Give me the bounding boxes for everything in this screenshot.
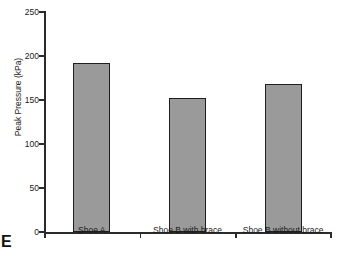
x-tick-mark [235, 232, 237, 238]
y-tick-label: 50 [30, 184, 39, 193]
figure-panel-e: E Peak Pressure (kPa) 050100150200250 Sh… [0, 0, 339, 261]
x-category-label: Shoe A [78, 226, 105, 235]
panel-letter: E [1, 234, 12, 250]
y-tick-label: 150 [25, 96, 39, 105]
bar-series [44, 12, 331, 232]
y-axis-label: Peak Pressure (kPa) [13, 37, 23, 157]
bar [169, 98, 206, 232]
y-tick-label: 100 [25, 140, 39, 149]
y-tick-label: 200 [25, 52, 39, 61]
y-tick-label: 250 [25, 8, 39, 17]
x-tick-mark [330, 232, 332, 238]
bar [73, 63, 110, 232]
x-tick-mark [44, 232, 46, 238]
y-tick-label: 0 [34, 228, 39, 237]
x-category-label: Shoe B with brace [153, 226, 222, 235]
bar [265, 84, 302, 232]
x-tick-mark [140, 232, 142, 238]
x-category-label: Shoe B without brace [243, 226, 324, 235]
plot-area: 050100150200250 [44, 12, 331, 232]
